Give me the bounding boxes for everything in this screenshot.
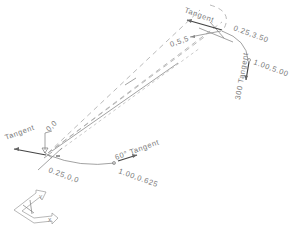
- start-tangent-label: Tangent: [4, 123, 36, 142]
- ucs-x-label: X: [48, 217, 52, 223]
- ucs-icon: Y X: [14, 190, 58, 224]
- end-down-coords-label: 1.00,5.00: [252, 57, 290, 78]
- mid-tangent-label: 60° Tangent: [114, 137, 161, 161]
- mid-coords-label: 1.00,0.625: [117, 166, 159, 189]
- end-tangent-label: Tangent: [183, 5, 215, 24]
- dashed-envelope: [48, 5, 226, 153]
- axis-label: 0,5,5: [169, 34, 191, 49]
- ucs-y-label: Y: [39, 194, 43, 200]
- cad-drawing-canvas: Tangent 0,0 0.25,0,0 60° Tangent 1.00,0.…: [0, 0, 304, 228]
- start-coords-label: 0.25,0,0: [47, 165, 80, 184]
- end-coords-label: 0.25,3.50: [232, 23, 270, 44]
- end-down-tangent-label: 300 Tangent: [233, 51, 250, 100]
- start-position-label: 0,0: [44, 118, 59, 133]
